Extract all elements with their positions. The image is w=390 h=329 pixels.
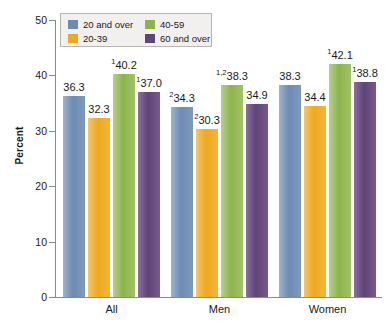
bar-value-label: 234.3 — [169, 92, 195, 104]
y-axis-tick-label: 50 — [21, 14, 47, 26]
bar-value-label: 137.0 — [136, 77, 162, 89]
bar — [329, 64, 351, 297]
legend-swatch-icon — [145, 34, 155, 43]
legend-item-label: 20-39 — [83, 33, 107, 44]
bar — [113, 74, 135, 297]
plot-area: 36.332.3140.2137.0234.3230.31,238.334.93… — [55, 20, 382, 297]
legend-item-label: 60 and over — [160, 33, 210, 44]
x-axis-category-label: Men — [209, 303, 230, 315]
bar — [246, 104, 268, 297]
y-axis-tick-label: 0 — [21, 291, 47, 303]
legend-swatch-icon — [68, 34, 78, 43]
y-axis-title: Percent — [14, 111, 25, 181]
bar-value-label: 38.3 — [279, 70, 300, 82]
y-axis-tick-label: 10 — [21, 236, 47, 248]
bar — [196, 129, 218, 297]
bar-value-label: 32.3 — [88, 103, 109, 115]
bar — [63, 96, 85, 297]
y-axis-tick-label: 40 — [21, 69, 47, 81]
legend: 20 and over 20-39 40-59 60 and over — [60, 13, 212, 47]
legend-item-label: 40-59 — [160, 19, 184, 30]
bar-value-label: 140.2 — [111, 59, 137, 71]
legend-item-40-59: 40-59 — [145, 19, 184, 30]
legend-swatch-icon — [68, 20, 78, 29]
bar — [88, 118, 110, 297]
x-axis-category-label: All — [105, 303, 117, 315]
bar-chart: Percent 01020304050 AllMenWomen 36.332.3… — [0, 0, 390, 329]
bar-value-label: 34.9 — [246, 89, 267, 101]
legend-item-20-39: 20-39 — [68, 33, 107, 44]
x-axis-line — [55, 297, 382, 298]
legend-item-20-and-over: 20 and over — [68, 19, 133, 30]
bar — [138, 92, 160, 297]
bar-value-label: 36.3 — [63, 81, 84, 93]
bar-value-label: 1,238.3 — [216, 70, 248, 82]
bar-value-label: 230.3 — [194, 114, 220, 126]
legend-item-60-and-over: 60 and over — [145, 33, 210, 44]
legend-item-label: 20 and over — [83, 19, 133, 30]
legend-swatch-icon — [145, 20, 155, 29]
bar-value-label: 142.1 — [327, 49, 353, 61]
y-axis-tick-label: 20 — [21, 180, 47, 192]
bar — [221, 85, 243, 297]
bar — [279, 85, 301, 297]
bar — [354, 82, 376, 297]
x-axis-category-label: Women — [309, 303, 347, 315]
bar — [304, 106, 326, 297]
bar-value-label: 138.8 — [352, 67, 378, 79]
y-axis-tick-label: 30 — [21, 125, 47, 137]
bar — [171, 107, 193, 297]
bar-value-label: 34.4 — [304, 91, 325, 103]
